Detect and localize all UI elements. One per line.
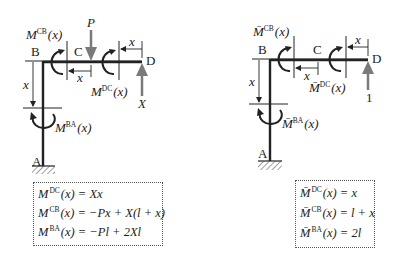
eq-superscript: DC — [49, 186, 59, 195]
unit-equation-dc: M̄DC(x) = x — [300, 185, 357, 201]
node-label-c: C — [74, 44, 83, 59]
dim-label-x-cb: x — [76, 70, 83, 85]
eq-superscript: CB — [311, 205, 321, 214]
eq-symbol: M — [38, 206, 48, 220]
eq-symbol: M — [38, 225, 48, 239]
node-label-a: A — [32, 154, 42, 169]
node-label-b: B — [31, 44, 40, 59]
fixed-support-hatch — [258, 161, 282, 170]
moment-equations-box: MDC(x) = Xx MCB(x) = −Px + X(l + x) MBA(… — [33, 182, 163, 246]
eq-symbol: M̄ — [300, 186, 310, 200]
equation-ba: MBA(x) = −Pl + 2Xl — [38, 224, 141, 240]
equation-cb: MCB(x) = −Px + X(l + x) — [38, 205, 165, 221]
moment-label-dc: MDC(x) — [90, 84, 128, 99]
dim-label-x-vertical: x — [248, 74, 255, 89]
load-label-p: P — [86, 15, 95, 30]
eq-rhs: (x) = −Px + X(l + x) — [60, 206, 165, 220]
node-label-c: C — [313, 42, 322, 57]
eq-superscript: BA — [49, 224, 59, 233]
eq-symbol: M̄ — [300, 206, 310, 220]
equation-dc: MDC(x) = Xx — [38, 186, 103, 202]
unit-moment-label-ba: M̄BA(x) — [281, 116, 319, 131]
eq-superscript: CB — [49, 205, 59, 214]
right-frame — [249, 36, 374, 170]
unit-moment-label-dc: M̄DC(x) — [308, 80, 346, 95]
eq-rhs: (x) = 2l — [323, 226, 361, 240]
eq-superscript: DC — [311, 185, 321, 194]
unit-load-label: 1 — [366, 90, 373, 105]
unit-moment-label-cb: M̄CB(x) — [252, 24, 289, 39]
eq-symbol: M — [38, 187, 48, 201]
unit-equation-cb: M̄CB(x) = l + x — [300, 205, 375, 221]
unit-equation-ba: M̄BA(x) = 2l — [300, 225, 361, 241]
reaction-label-x: X — [137, 96, 147, 111]
load-p-arrow-icon — [85, 47, 97, 61]
node-label-d: D — [372, 51, 381, 66]
moment-label-cb: MCB(x) — [25, 27, 62, 42]
unit-moment-equations-box: M̄DC(x) = x M̄CB(x) = l + x M̄BA(x) = 2l — [295, 180, 375, 248]
dim-label-x-dc: x — [354, 32, 361, 47]
node-label-d: D — [146, 53, 155, 68]
eq-rhs: (x) = x — [323, 186, 357, 200]
eq-symbol: M̄ — [300, 226, 310, 240]
node-label-a: A — [258, 146, 268, 161]
eq-rhs: (x) = −Pl + 2Xl — [61, 225, 141, 239]
eq-superscript: BA — [311, 225, 321, 234]
node-label-b: B — [258, 42, 267, 57]
dim-label-x-dc: x — [128, 34, 135, 49]
left-frame — [23, 30, 148, 174]
dim-label-x-vertical: x — [22, 77, 29, 92]
eq-rhs: (x) = l + x — [322, 206, 374, 220]
moment-label-ba: MBA(x) — [54, 120, 92, 135]
eq-rhs: (x) = Xx — [61, 187, 103, 201]
